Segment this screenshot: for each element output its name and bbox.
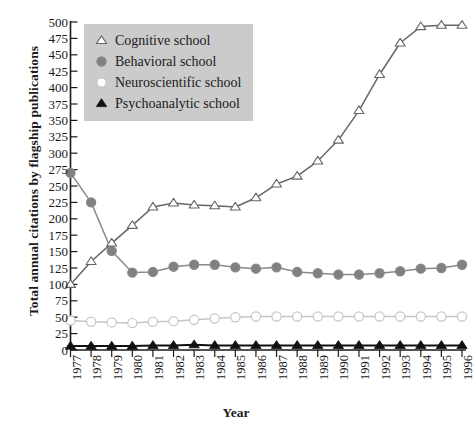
x-tick-label: 1992 bbox=[380, 334, 393, 380]
chart-legend: Cognitive schoolBehavioral schoolNeurosc… bbox=[84, 24, 253, 121]
x-tick-label: 1988 bbox=[297, 334, 310, 380]
x-tick-label: 1986 bbox=[256, 334, 269, 380]
circle-filled-gray-icon bbox=[93, 53, 110, 70]
triangle-open-icon bbox=[93, 32, 110, 49]
x-tick-label: 1981 bbox=[153, 334, 166, 380]
x-tick-label: 1987 bbox=[277, 334, 290, 380]
legend-item-label: Psychoanalytic school bbox=[115, 96, 240, 111]
x-tick-label: 1983 bbox=[194, 334, 207, 380]
x-tick-label: 1980 bbox=[132, 334, 145, 380]
legend-item-cognitive-school: Cognitive school bbox=[93, 30, 241, 51]
x-tick-label: 1991 bbox=[359, 334, 372, 380]
circle-open-icon bbox=[93, 74, 110, 91]
x-tick-label: 1993 bbox=[400, 334, 413, 380]
legend-item-neuroscientific-school: Neuroscientific school bbox=[93, 72, 241, 93]
x-tick-label: 1996 bbox=[462, 334, 475, 380]
x-tick-label: 1994 bbox=[421, 334, 434, 380]
x-tick-label: 1978 bbox=[91, 334, 104, 380]
x-axis-title: Year bbox=[0, 405, 472, 421]
x-tick-label: 1995 bbox=[441, 334, 454, 380]
legend-item-label: Cognitive school bbox=[115, 33, 210, 48]
x-tick-label: 1985 bbox=[235, 334, 248, 380]
legend-item-label: Behavioral school bbox=[115, 54, 216, 69]
triangle-filled-icon bbox=[93, 95, 110, 112]
legend-item-psychoanalytic-school: Psychoanalytic school bbox=[93, 93, 241, 114]
figure-caption bbox=[0, 424, 472, 431]
x-tick-label: 1977 bbox=[71, 334, 84, 380]
legend-item-label: Neuroscientific school bbox=[115, 75, 241, 90]
x-tick-label: 1989 bbox=[318, 334, 331, 380]
x-tick-label: 1982 bbox=[174, 334, 187, 380]
x-tick-label: 1979 bbox=[112, 334, 125, 380]
legend-item-behavioral-school: Behavioral school bbox=[93, 51, 241, 72]
x-tick-label: 1990 bbox=[338, 334, 351, 380]
x-tick-label: 1984 bbox=[215, 334, 228, 380]
